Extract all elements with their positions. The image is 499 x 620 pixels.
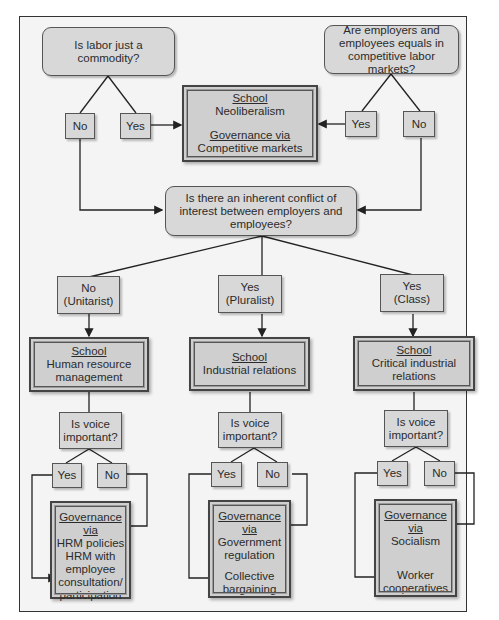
school-hrm: School Human resource management	[29, 337, 149, 392]
answer-text: No	[412, 118, 427, 131]
question-text: Are employers and employees equals in co…	[328, 24, 456, 76]
answer-text: No	[432, 467, 447, 480]
school-critical-ir: School Critical industrial relations	[353, 336, 475, 391]
voice-no-ir: No	[257, 462, 288, 487]
answer-subtext: (Unitarist)	[64, 295, 114, 308]
question-text: important?	[389, 429, 443, 442]
answer-text: Yes	[352, 118, 371, 131]
question-text: Is voice	[397, 416, 436, 429]
governance-voice: cooperatives	[383, 582, 448, 595]
answer-text: Yes	[126, 120, 145, 133]
governance-voice: employee	[66, 563, 116, 576]
governance-no-voice: HRM policies	[57, 537, 125, 550]
voice-question-ir: Is voice important?	[218, 412, 282, 448]
answer-text: No	[73, 120, 88, 133]
school-label: School	[232, 92, 267, 105]
school-label: School	[232, 351, 267, 364]
governance-no-voice: Government	[218, 536, 281, 549]
voice-yes-critical: Yes	[377, 461, 408, 486]
voice-no-hrm: No	[97, 463, 127, 488]
question-text: Is there an inherent conflict of interes…	[176, 192, 346, 231]
answer-unitarist: No (Unitarist)	[57, 276, 120, 314]
governance-no-voice: Socialism	[391, 535, 440, 548]
governance-voice: consultation/	[58, 576, 123, 589]
governance-label: Governance via	[52, 511, 129, 537]
answer-q2-no: No	[403, 111, 435, 137]
governance-voice: Worker	[397, 569, 434, 582]
governance-voice: Collective	[225, 570, 275, 583]
answer-text: Yes	[58, 469, 77, 482]
school-name: Neoliberalism	[215, 105, 285, 118]
school-label: School	[71, 345, 106, 358]
voice-question-critical: Is voice important?	[384, 410, 448, 447]
answer-q1-yes: Yes	[120, 113, 151, 139]
question-text: Is voice	[71, 418, 110, 431]
governance-voice: bargaining	[223, 583, 277, 596]
governance-voice: participation	[59, 589, 121, 602]
voice-yes-hrm: Yes	[52, 463, 82, 488]
governance-critical: Governance via Socialism Worker cooperat…	[374, 499, 457, 597]
school-name-cont: relations	[392, 370, 435, 383]
school-name-cont: management	[55, 371, 122, 384]
answer-pluralist: Yes (Pluralist)	[218, 275, 282, 313]
school-name: Human resource	[46, 358, 131, 371]
question-inherent-conflict: Is there an inherent conflict of interes…	[165, 186, 357, 236]
answer-q1-no: No	[65, 113, 95, 139]
question-text: Is labor just a commodity?	[64, 39, 154, 65]
answer-subtext: (Class)	[394, 293, 430, 306]
voice-question-hrm: Is voice important?	[59, 412, 122, 449]
answer-subtext: (Pluralist)	[226, 294, 275, 307]
answer-text: No	[105, 469, 120, 482]
question-text: important?	[223, 430, 277, 443]
governance-label: Governance via	[376, 509, 455, 535]
answer-text: No	[265, 468, 280, 481]
governance-ir: Governance via Government regulation Col…	[208, 500, 291, 598]
school-industrial-relations: School Industrial relations	[189, 337, 310, 391]
governance-hrm: Governance via HRM policies HRM with emp…	[50, 501, 131, 599]
governance-label: Governance via	[210, 510, 289, 536]
answer-text: Yes	[217, 468, 236, 481]
question-text: important?	[63, 431, 117, 444]
question-labor-commodity: Is labor just a commodity?	[42, 27, 175, 76]
question-employers-equals: Are employers and employees equals in co…	[324, 25, 459, 74]
governance-no-voice: regulation	[224, 549, 275, 562]
school-name: Critical industrial	[372, 357, 456, 370]
school-label: School	[396, 344, 431, 357]
answer-text: No	[81, 282, 96, 295]
governance-label: Governance via	[210, 129, 291, 142]
governance-voice: HRM with	[66, 550, 116, 563]
voice-no-critical: No	[424, 461, 455, 486]
school-name: Industrial relations	[203, 364, 296, 377]
voice-yes-ir: Yes	[211, 462, 242, 487]
question-text: Is voice	[231, 417, 270, 430]
governance-value: Competitive markets	[198, 142, 303, 155]
answer-text: Yes	[383, 467, 402, 480]
answer-q2-yes: Yes	[345, 111, 377, 137]
school-neoliberalism: School Neoliberalism Governance via Comp…	[182, 85, 318, 162]
answer-text: Yes	[241, 281, 260, 294]
answer-class: Yes (Class)	[380, 274, 444, 312]
answer-text: Yes	[403, 280, 422, 293]
